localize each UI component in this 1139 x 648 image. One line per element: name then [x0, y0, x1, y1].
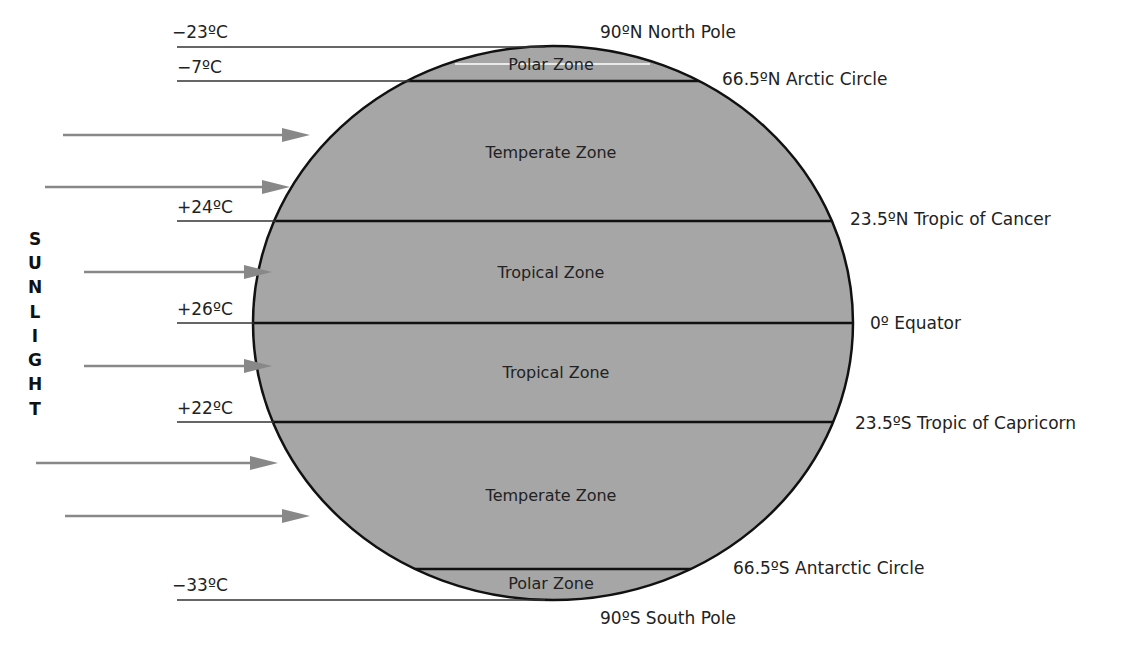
zone-label-north-polar: Polar Zone	[508, 55, 594, 74]
latitude-label-tropic-of-capricorn: 23.5ºS Tropic of Capricorn	[855, 413, 1076, 433]
temp-label-equator: +26ºC	[177, 299, 233, 319]
arrowhead-icon	[250, 456, 278, 470]
sunlight-label: S U N L I G H T	[28, 229, 42, 419]
sunlight-letter: N	[28, 277, 42, 297]
latitude-label-tropic-of-cancer: 23.5ºN Tropic of Cancer	[850, 209, 1051, 229]
sunlight-letter: H	[28, 374, 42, 394]
sunlight-letter: L	[30, 302, 41, 322]
sunlight-letter: U	[28, 253, 42, 273]
sunlight-letter: T	[29, 399, 41, 419]
zone-label-south-polar: Polar Zone	[508, 574, 594, 593]
latitude-label-south-pole: 90ºS South Pole	[600, 608, 736, 628]
temp-label-arctic: −7ºC	[177, 57, 222, 77]
arrowhead-icon	[282, 509, 310, 523]
temp-label-south-pole: −33ºC	[172, 575, 228, 595]
temp-label-cancer: +24ºC	[177, 197, 233, 217]
temp-label-north-pole: −23ºC	[172, 22, 228, 42]
latitude-label-equator: 0º Equator	[870, 313, 961, 333]
zone-label-south-temperate: Temperate Zone	[485, 486, 617, 505]
zone-label-north-temperate: Temperate Zone	[485, 143, 617, 162]
latitude-label-north-pole: 90ºN North Pole	[600, 22, 736, 42]
zone-label-south-tropical: Tropical Zone	[502, 363, 610, 382]
sunlight-letter: G	[28, 350, 42, 370]
arrowhead-icon	[262, 180, 290, 194]
latitude-label-arctic-circle: 66.5ºN Arctic Circle	[722, 69, 887, 89]
climate-zones-diagram: S U N L I G H T −23ºC −7ºC +24ºC +26ºC +…	[0, 0, 1139, 648]
sunlight-letter: S	[29, 229, 41, 249]
sunlight-letter: I	[32, 326, 38, 346]
arrowhead-icon	[282, 128, 310, 142]
temp-label-capricorn: +22ºC	[177, 398, 233, 418]
latitude-label-antarctic-circle: 66.5ºS Antarctic Circle	[733, 558, 924, 578]
zone-label-north-tropical: Tropical Zone	[497, 263, 605, 282]
